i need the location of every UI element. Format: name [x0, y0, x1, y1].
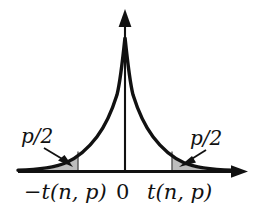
- x-axis-arrowhead-icon: [231, 165, 248, 178]
- right-tail-probability-label: p/2: [190, 128, 222, 148]
- right-tail-shaded-region: [125, 39, 232, 172]
- left-tail-probability-label: p/2: [21, 126, 53, 146]
- x-tick-label-zero: 0: [116, 182, 129, 203]
- y-axis-arrowhead-icon: [119, 9, 132, 27]
- t-distribution-figure: p/2 p/2 −t(n, p) 0 t(n, p): [0, 0, 265, 214]
- left-tail-shaded-region: [18, 39, 125, 172]
- x-tick-label-positive-critical-value: t(n, p): [147, 182, 212, 203]
- x-tick-label-negative-critical-value: −t(n, p): [24, 182, 107, 203]
